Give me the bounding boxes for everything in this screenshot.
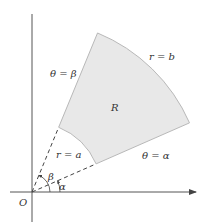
label-region-r: R xyxy=(110,102,119,113)
label-r-a: r = a xyxy=(56,149,82,160)
label-theta-alpha: θ = α xyxy=(142,150,170,161)
label-alpha: α xyxy=(59,181,66,192)
label-r-b: r = b xyxy=(149,51,175,62)
polar-region-diagram: θ = β r = b R r = a θ = α β α O xyxy=(0,0,208,222)
label-origin: O xyxy=(19,197,27,208)
label-theta-beta: θ = β xyxy=(50,68,77,79)
label-beta: β xyxy=(47,171,54,182)
